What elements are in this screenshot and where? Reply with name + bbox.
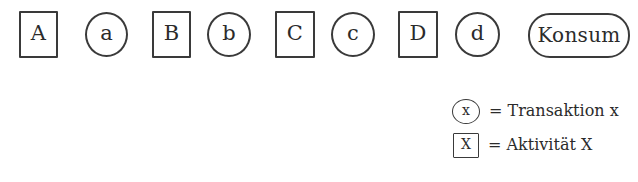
node-label: B: [164, 23, 180, 44]
legend-square-icon: X: [453, 133, 479, 158]
node-label: Konsum: [537, 25, 620, 45]
node-transaction-d[interactable]: d: [455, 12, 500, 57]
legend-row-transaction: x = Transaktion x: [452, 94, 638, 128]
node-label: C: [287, 23, 303, 44]
legend-circle-icon: x: [452, 99, 480, 124]
legend-row-activity: X = Aktivität X: [452, 128, 638, 162]
node-terminal-konsum[interactable]: Konsum: [528, 13, 630, 58]
node-label: c: [347, 23, 359, 44]
legend-key-glyph: x: [462, 102, 470, 118]
legend-key-glyph: X: [461, 136, 471, 152]
node-transaction-b[interactable]: b: [207, 12, 251, 57]
node-activity-a[interactable]: A: [19, 11, 58, 58]
legend-text-activity: = Aktivität X: [488, 135, 592, 154]
node-label: A: [31, 23, 46, 44]
node-label: a: [100, 23, 113, 44]
node-activity-d[interactable]: D: [398, 11, 438, 58]
node-transaction-c[interactable]: c: [331, 12, 375, 57]
legend: x = Transaktion x X = Aktivität X: [452, 94, 638, 162]
node-label: d: [471, 23, 485, 44]
node-label: D: [409, 23, 426, 44]
legend-text-transaction: = Transaktion x: [489, 101, 619, 120]
node-activity-c[interactable]: C: [275, 11, 315, 58]
node-activity-b[interactable]: B: [152, 11, 191, 58]
node-label: b: [222, 23, 236, 44]
diagram-canvas: A a B b C c D d Konsum x = Transaktion x…: [0, 0, 638, 182]
node-transaction-a[interactable]: a: [85, 12, 128, 57]
